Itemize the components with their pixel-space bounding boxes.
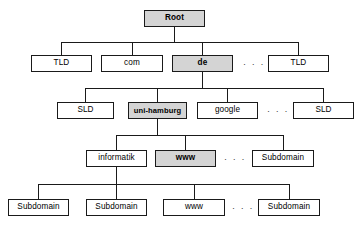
edge-drop-tld-left — [61, 42, 62, 55]
node-sld-left[interactable]: SLD — [57, 102, 114, 119]
node-informatik[interactable]: informatik — [86, 150, 147, 167]
ellipsis-sld-row: · · · — [267, 107, 289, 116]
edge-root-stem — [174, 27, 175, 42]
node-root[interactable]: Root — [144, 10, 205, 27]
edge-drop-tld-right — [298, 42, 299, 55]
edge-uni-hamburg-stem — [157, 119, 158, 135]
edge-drop-www-l4 — [194, 184, 195, 199]
ellipsis-tld-row: · · · — [243, 60, 265, 69]
edge-sub2-bus — [38, 184, 289, 185]
ellipsis-subdomain-row-2: · · · — [232, 204, 254, 213]
edge-drop-de — [202, 42, 203, 55]
edge-drop-informatik — [116, 135, 117, 150]
node-www-level4[interactable]: www — [163, 199, 225, 216]
edge-drop-sub-l4-b — [116, 184, 117, 199]
dns-hierarchy-diagram: Root TLD com de TLD SLD uni-hamburg goog… — [0, 0, 361, 227]
edge-drop-www-l3 — [185, 135, 186, 150]
edge-tld-bus — [61, 42, 299, 43]
edge-drop-sub-l4-a — [38, 184, 39, 199]
node-com[interactable]: com — [101, 55, 163, 72]
node-tld-left[interactable]: TLD — [31, 55, 92, 72]
node-subdomain-level4-a[interactable]: Subdomain — [8, 199, 69, 216]
edge-sld-bus — [85, 88, 324, 89]
node-subdomain-level4-b[interactable]: Subdomain — [86, 199, 147, 216]
edge-drop-sub-l3 — [283, 135, 284, 150]
node-de[interactable]: de — [172, 55, 233, 72]
edge-informatik-stem — [116, 167, 117, 184]
ellipsis-subdomain-row-1: · · · — [224, 155, 246, 164]
edge-drop-com — [132, 42, 133, 55]
node-google[interactable]: google — [197, 102, 258, 119]
edge-drop-sub-l4-d — [289, 184, 290, 199]
edge-drop-uni-hamburg — [157, 88, 158, 102]
edge-de-stem — [202, 72, 203, 88]
edge-drop-sld-right — [323, 88, 324, 102]
node-tld-right[interactable]: TLD — [268, 55, 329, 72]
node-www-level3[interactable]: www — [155, 150, 216, 167]
node-subdomain-level4-d[interactable]: Subdomain — [258, 199, 320, 216]
node-subdomain-level3[interactable]: Subdomain — [252, 150, 314, 167]
edge-drop-google — [227, 88, 228, 102]
node-uni-hamburg[interactable]: uni-hamburg — [128, 102, 187, 119]
edge-sub1-bus — [116, 135, 283, 136]
node-sld-right[interactable]: SLD — [293, 102, 354, 119]
edge-drop-sld-left — [85, 88, 86, 102]
